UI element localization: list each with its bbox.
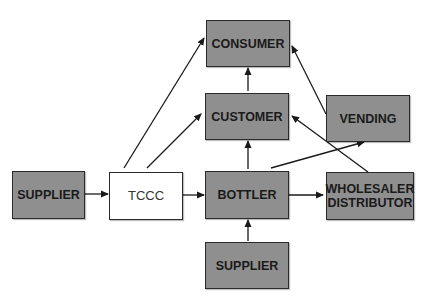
node-supplier-bottom-label: SUPPLIER — [216, 259, 279, 273]
node-wholesaler-label: WHOLESALER — [326, 182, 415, 196]
node-bottler-label: BOTTLER — [217, 188, 276, 202]
edge-bottler-to-vending — [271, 142, 364, 168]
edge-tccc-to-customer — [147, 114, 201, 168]
node-distributor-label: DISTRIBUTOR — [327, 196, 412, 210]
node-bottler: BOTTLER — [205, 171, 289, 219]
node-supplier-bottom: SUPPLIER — [205, 242, 289, 289]
node-supplier-left: SUPPLIER — [12, 171, 85, 219]
node-vending: VENDING — [326, 95, 410, 142]
node-customer: CUSTOMER — [205, 93, 289, 140]
edge-vending-to-consumer — [292, 46, 326, 114]
edge-tccc-to-consumer — [124, 38, 204, 168]
node-tccc: TCCC — [109, 172, 183, 220]
node-supplier-left-label: SUPPLIER — [17, 188, 80, 202]
node-vending-label: VENDING — [340, 112, 397, 126]
node-consumer-label: CONSUMER — [212, 37, 285, 51]
node-tccc-label: TCCC — [128, 189, 164, 203]
node-consumer: CONSUMER — [206, 20, 290, 67]
node-wholesaler-distributor: WHOLESALER DISTRIBUTOR — [326, 172, 414, 220]
node-customer-label: CUSTOMER — [211, 110, 282, 124]
